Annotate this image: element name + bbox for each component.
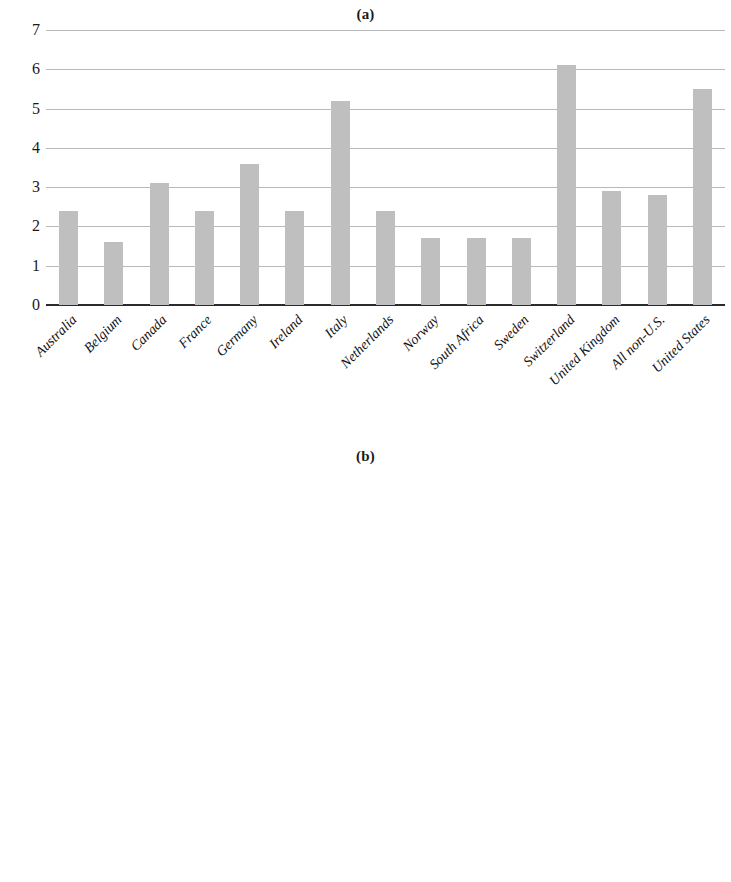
bar[interactable] (557, 65, 576, 305)
bar[interactable] (467, 238, 486, 305)
y-tick-label: 7 (32, 22, 40, 38)
bar[interactable] (648, 195, 667, 305)
bar[interactable] (59, 211, 78, 305)
bar-slot (634, 30, 679, 305)
y-tick-label: 4 (32, 140, 40, 156)
x-tick-label: Sweden (491, 312, 533, 354)
bar-slot (46, 30, 91, 305)
panel-a-title: (a) (0, 0, 731, 23)
x-tick-label: Italy (322, 312, 351, 341)
y-tick-label: 3 (32, 179, 40, 195)
bar-slot (589, 30, 634, 305)
bar-slot (363, 30, 408, 305)
bar-slot (227, 30, 272, 305)
x-tick-label: Ireland (266, 312, 306, 352)
panel-b-title: (b) (0, 440, 731, 465)
bar-slot (272, 30, 317, 305)
bar-group (46, 30, 725, 305)
bar[interactable] (331, 101, 350, 305)
bar[interactable] (602, 191, 621, 305)
bar-slot (91, 30, 136, 305)
x-tick-label: Norway (399, 312, 442, 355)
chart-a-plot-area (46, 30, 725, 305)
bar[interactable] (240, 164, 259, 305)
chart-a: 01234567 (0, 30, 731, 305)
x-tick-label: France (176, 312, 216, 352)
x-tick-label: Canada (128, 312, 171, 355)
bar-slot (137, 30, 182, 305)
y-tick-label: 2 (32, 218, 40, 234)
y-tick-label: 6 (32, 61, 40, 77)
y-tick-label: 0 (32, 297, 40, 313)
y-tick-label: 5 (32, 101, 40, 117)
bar[interactable] (512, 238, 531, 305)
bar[interactable] (693, 89, 712, 305)
bar[interactable] (104, 242, 123, 305)
bar[interactable] (376, 211, 395, 305)
bar-slot (544, 30, 589, 305)
bar-slot (680, 30, 725, 305)
x-tick-label: Germany (213, 312, 261, 360)
bar-slot (453, 30, 498, 305)
bar[interactable] (150, 183, 169, 305)
y-tick-label: 1 (32, 258, 40, 274)
x-tick-label: Australia (32, 312, 80, 360)
chart-a-y-axis: 01234567 (0, 30, 46, 305)
bar-slot (499, 30, 544, 305)
x-tick-label: Belgium (81, 312, 125, 356)
bar[interactable] (421, 238, 440, 305)
bar-slot (408, 30, 453, 305)
bar-slot (182, 30, 227, 305)
bar[interactable] (285, 211, 304, 305)
panel-b: (b) 0%20%40%60%80%100%120% AustraliaBelg… (0, 440, 731, 882)
bar[interactable] (195, 211, 214, 305)
panel-a: (a) 01234567 AustraliaBelgiumCanadaFranc… (0, 0, 731, 440)
bar-slot (318, 30, 363, 305)
